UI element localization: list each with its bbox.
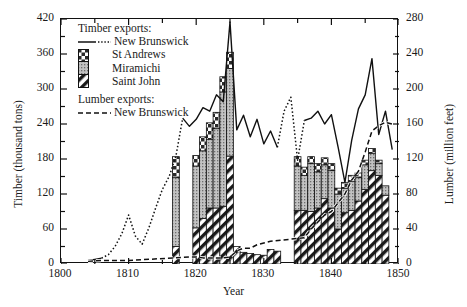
bar-segment	[335, 229, 342, 264]
bar-segment	[369, 153, 376, 171]
bar-segment	[240, 252, 247, 264]
bar-segment	[308, 164, 315, 212]
bar-segment	[173, 157, 180, 178]
bar-segment	[321, 165, 328, 199]
y-tick-right-200: 200	[406, 81, 440, 93]
y-tick-left-120: 120	[20, 186, 54, 198]
bar-segment	[173, 178, 180, 247]
bar-segment	[342, 213, 349, 264]
bar-segment	[260, 255, 267, 264]
bar-segment	[200, 151, 207, 219]
bar-segment	[375, 175, 382, 264]
bar-segment	[213, 208, 220, 264]
y-tick-right-40: 40	[406, 221, 440, 233]
bar-segment	[315, 164, 322, 172]
y-axis-right-title: Lumber (million feet)	[443, 84, 455, 224]
legend-bar-label-st-andrews: St Andrews	[112, 48, 228, 61]
bar-segment	[206, 208, 213, 264]
y-tick-left-420: 420	[20, 11, 54, 23]
bar-segment	[200, 137, 207, 151]
bar-segment	[294, 166, 301, 210]
bar-segment	[206, 139, 213, 208]
y-tick-left-240: 240	[20, 116, 54, 128]
x-tick-1850: 1850	[376, 267, 420, 279]
lumber-line-swatch	[78, 107, 112, 118]
legend-timber-line-row: New Brunswick	[78, 35, 228, 48]
bar-segment	[213, 129, 220, 208]
x-tick-1840: 1840	[308, 267, 352, 279]
y-tick-right-160: 160	[406, 116, 440, 128]
bar-segment	[328, 171, 335, 208]
y-tick-right-80: 80	[406, 186, 440, 198]
legend-bar-label-miramichi: Miramichi	[112, 62, 228, 75]
bar-segment	[328, 208, 335, 264]
bar-segment	[355, 178, 362, 201]
bar-segment	[247, 254, 254, 265]
bar-segment	[193, 166, 200, 228]
x-tick-1800: 1800	[38, 267, 82, 279]
bar-segment	[382, 186, 389, 195]
bar-segment	[267, 249, 274, 264]
bar-segment	[274, 251, 281, 264]
y-tick-right-120: 120	[406, 151, 440, 163]
bar-segment	[173, 247, 180, 265]
y-tick-left-360: 360	[20, 46, 54, 58]
x-tick-1810: 1810	[106, 267, 150, 279]
legend-lumber-header: Lumber exports:	[78, 93, 228, 106]
bar-segment	[362, 160, 369, 165]
y-tick-left-60: 60	[20, 221, 54, 233]
bar-segment	[315, 208, 322, 264]
y-tick-left-300: 300	[20, 81, 54, 93]
bar-segment	[301, 175, 308, 210]
bar-segment	[362, 165, 369, 190]
timber-lumber-exports-chart: Timber (thousand tons) Lumber (million f…	[0, 0, 467, 307]
bar-segment	[321, 199, 328, 264]
bar-segment	[315, 172, 322, 208]
bar-segment	[335, 188, 342, 194]
bar-segment	[328, 164, 335, 171]
bar-segment	[193, 156, 200, 167]
bar-segment	[227, 156, 234, 264]
bar-segment	[348, 210, 355, 264]
legend-lumber-line-row: New Brunswick	[78, 106, 228, 119]
bar-segment	[301, 167, 308, 175]
x-tick-1820: 1820	[173, 267, 217, 279]
bar-segment	[369, 171, 376, 264]
bar-segment	[382, 195, 389, 264]
legend-lumber-line-label: New Brunswick	[112, 106, 188, 119]
bar-segment	[254, 255, 261, 264]
bar-segment	[294, 157, 301, 166]
bar-segment	[220, 206, 227, 264]
timber-line-swatch	[78, 36, 112, 47]
legend-bar-label-saint-john: Saint John	[112, 75, 228, 88]
bar-segment	[308, 157, 315, 164]
legend-timber-line-label: New Brunswick	[112, 35, 188, 48]
bar-segment	[369, 149, 376, 154]
y-tick-left-180: 180	[20, 151, 54, 163]
y-tick-right-280: 280	[406, 11, 440, 23]
bar-segment	[206, 123, 213, 139]
timber-line-segment	[102, 118, 183, 258]
bar-segment	[308, 212, 315, 265]
y-tick-right-240: 240	[406, 46, 440, 58]
timber-line-segment	[277, 97, 304, 160]
bar-segment	[375, 164, 382, 176]
x-axis-title: Year	[0, 285, 467, 297]
x-tick-1830: 1830	[241, 267, 285, 279]
bar-segment	[375, 160, 382, 164]
chart-legend: Timber exports: New Brunswick St Andrews	[78, 22, 228, 119]
legend-timber-header: Timber exports:	[78, 22, 228, 35]
bar-segment	[362, 189, 369, 264]
bar-pattern-swatch	[78, 49, 89, 91]
bar-segment	[355, 201, 362, 264]
bar-segment	[321, 158, 328, 165]
